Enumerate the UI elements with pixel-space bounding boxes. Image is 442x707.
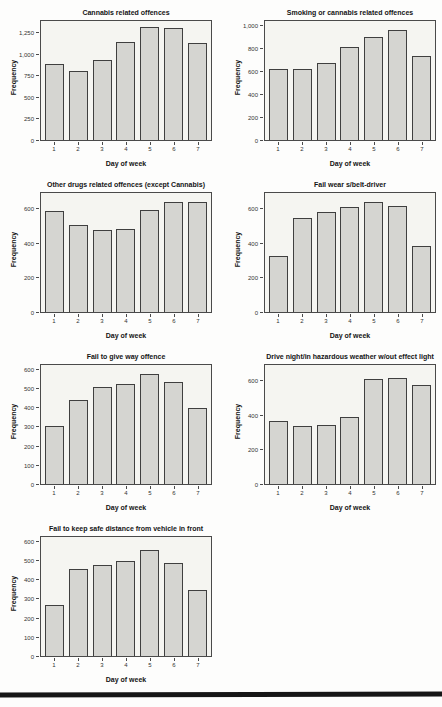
x-axis-tick-mark <box>78 658 79 661</box>
y-axis-tick-mark <box>260 208 263 209</box>
y-axis-tick-label: 300 <box>6 596 34 602</box>
x-axis-tick-mark <box>398 142 399 145</box>
y-axis-tick-label: 250 <box>6 116 34 122</box>
x-axis-tick-label: 2 <box>76 146 79 152</box>
y-axis-tick-label: 200 <box>230 115 258 121</box>
x-axis-tick-mark <box>302 486 303 489</box>
bar-chart: Fail to give way offence Frequency 01002… <box>6 350 218 515</box>
y-axis-tick-label: 0 <box>6 310 34 316</box>
bar-chart: Smoking or cannabis related offences Fre… <box>230 6 442 171</box>
x-axis-tick: 3 <box>92 142 113 153</box>
y-axis-tick-mark <box>260 71 263 72</box>
bar <box>188 590 207 656</box>
bar <box>293 69 312 140</box>
bar <box>69 225 88 312</box>
bar <box>364 37 383 140</box>
x-axis-tick-mark <box>302 142 303 145</box>
y-axis-tick-label: 0 <box>230 138 258 144</box>
x-axis-tick-label: 2 <box>300 490 303 496</box>
x-axis-tick: 2 <box>292 314 313 325</box>
y-axis-tick-mark <box>260 94 263 95</box>
x-axis-tick: 1 <box>268 314 289 325</box>
x-axis-tick-mark <box>326 142 327 145</box>
x-axis-tick-label: 4 <box>124 146 127 152</box>
x-axis-tick: 4 <box>340 314 361 325</box>
plot-area <box>264 364 436 485</box>
y-axis-tick-label: 1,000 <box>230 23 258 29</box>
bar <box>140 550 159 656</box>
y-axis-tick-mark <box>260 484 263 485</box>
y-axis-tick-mark <box>36 560 39 561</box>
y-axis-tick-label: 0 <box>230 482 258 488</box>
x-axis-tick-mark <box>126 314 127 317</box>
x-axis-tick-label: 4 <box>124 662 127 668</box>
bar <box>317 425 336 484</box>
x-axis-tick-mark <box>102 142 103 145</box>
x-axis-tick: 1 <box>44 658 65 669</box>
bar <box>364 202 383 312</box>
y-axis-tick-label: 600 <box>230 69 258 75</box>
y-axis-tick-mark <box>260 380 263 381</box>
x-axis-tick-mark <box>174 486 175 489</box>
x-axis-tick-label: 1 <box>52 146 55 152</box>
x-axis-label: Day of week <box>264 160 436 167</box>
y-axis-tick-label: 400 <box>6 241 34 247</box>
x-axis-tick-label: 3 <box>100 662 103 668</box>
x-axis-tick-label: 6 <box>172 490 175 496</box>
y-axis-tick-mark <box>260 415 263 416</box>
plot-area <box>40 20 212 141</box>
chart-title: Drive night/in hazardous weather w/out e… <box>264 353 436 360</box>
x-axis-tick-label: 7 <box>196 662 199 668</box>
x-axis-tick: 1 <box>268 486 289 497</box>
bar <box>188 43 207 140</box>
y-axis: 02505007501,0001,250 <box>6 20 39 141</box>
bar <box>388 206 407 312</box>
bar <box>93 565 112 656</box>
y-axis-tick-mark <box>36 465 39 466</box>
y-axis-tick-label: 0 <box>6 654 34 660</box>
x-axis-tick-mark <box>198 486 199 489</box>
x-axis-tick-mark <box>126 658 127 661</box>
x-axis: 1234567 <box>40 142 212 153</box>
chart-title: Fail to keep safe distance from vehicle … <box>40 525 212 532</box>
x-axis-tick: 6 <box>164 658 185 669</box>
x-axis-tick-mark <box>422 486 423 489</box>
y-axis-tick-label: 500 <box>6 558 34 564</box>
x-axis-tick-mark <box>326 486 327 489</box>
bar <box>45 211 64 312</box>
y-axis-tick-label: 800 <box>230 46 258 52</box>
x-axis-tick-label: 3 <box>324 490 327 496</box>
x-axis-tick-mark <box>78 142 79 145</box>
x-axis-tick: 3 <box>92 486 113 497</box>
bar <box>269 69 288 140</box>
x-axis-tick-label: 6 <box>396 318 399 324</box>
plot-area <box>40 364 212 485</box>
x-axis: 1234567 <box>264 314 436 325</box>
x-axis-tick: 5 <box>364 314 385 325</box>
y-axis-tick-label: 400 <box>6 577 34 583</box>
x-axis-tick: 4 <box>116 486 137 497</box>
bar <box>69 400 88 484</box>
bar <box>93 387 112 484</box>
x-axis-tick-mark <box>374 314 375 317</box>
x-axis-tick: 3 <box>316 314 337 325</box>
y-axis-tick-label: 0 <box>6 138 34 144</box>
y-axis-tick-label: 0 <box>230 310 258 316</box>
x-axis-tick-mark <box>326 314 327 317</box>
x-axis-tick-mark <box>398 486 399 489</box>
y-axis-tick-mark <box>36 598 39 599</box>
x-axis-tick-label: 6 <box>172 662 175 668</box>
bar <box>412 385 431 484</box>
plot-area <box>264 20 436 141</box>
x-axis-tick: 4 <box>340 486 361 497</box>
bar <box>93 60 112 140</box>
x-axis-tick-label: 1 <box>52 662 55 668</box>
x-axis-tick-mark <box>54 658 55 661</box>
x-axis-tick-mark <box>54 314 55 317</box>
x-axis-tick-mark <box>198 314 199 317</box>
y-axis-tick-label: 200 <box>6 616 34 622</box>
y-axis-tick-label: 600 <box>6 539 34 545</box>
y-axis-tick-mark <box>36 484 39 485</box>
x-axis-tick: 1 <box>268 142 289 153</box>
bar <box>340 47 359 140</box>
